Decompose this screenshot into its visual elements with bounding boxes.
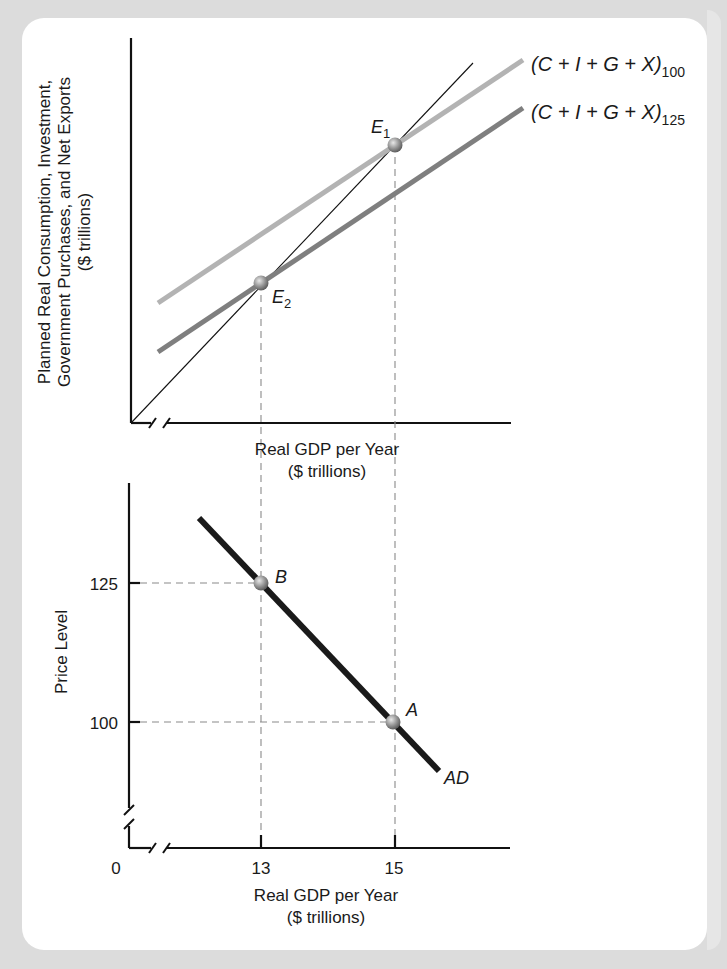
figure-canvas: Planned Real Consumption, Investment, Go… (0, 0, 727, 969)
xtick-label-13: 13 (252, 859, 271, 878)
point-b (254, 576, 269, 591)
top-ylabel-line2: Government Purchases, and Net Exports (55, 77, 74, 387)
ytick-label-100: 100 (90, 714, 118, 733)
xtick-label-15: 15 (385, 859, 404, 878)
top-xlabel-line1: Real GDP per Year (255, 440, 400, 459)
top-ylabel-line1: Planned Real Consumption, Investment, (35, 80, 54, 384)
legend-label-125: (C + I + G + X)125 (531, 101, 685, 128)
equilibrium-point-e2 (254, 276, 269, 291)
label-point-a: A (405, 700, 418, 720)
label-ad-curve: AD (443, 768, 469, 788)
label-e2: E2 (272, 287, 291, 311)
label-point-b: B (275, 567, 287, 587)
forty-five-degree-line (131, 63, 473, 423)
point-a (386, 715, 401, 730)
legend-label-100: (C + I + G + X)100 (531, 53, 685, 80)
bottom-xlabel-line2: ($ trillions) (287, 908, 365, 927)
aggregate-expenditure-line-125 (158, 108, 523, 352)
xtick-label-0: 0 (111, 859, 120, 878)
top-y-axis-label: Planned Real Consumption, Investment, Go… (35, 77, 94, 387)
top-chart: Planned Real Consumption, Investment, Go… (35, 38, 685, 848)
bottom-xlabel-line1: Real GDP per Year (254, 886, 399, 905)
aggregate-expenditure-line-100 (158, 60, 523, 303)
bottom-ylabel: Price Level (52, 610, 71, 694)
label-e1: E1 (371, 117, 390, 141)
top-xlabel-line2: ($ trillions) (288, 462, 366, 481)
bottom-chart: Price Level 125 100 0 13 15 B A AD (52, 483, 510, 927)
aggregate-demand-curve (199, 518, 439, 771)
top-ylabel-line3: ($ trillions) (75, 193, 94, 271)
ytick-label-125: 125 (90, 575, 118, 594)
